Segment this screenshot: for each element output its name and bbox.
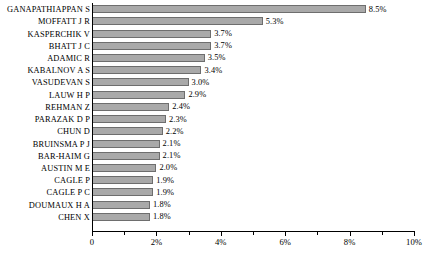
- bar-value-label: 1.9%: [156, 176, 174, 185]
- bar-value-label: 3.7%: [214, 41, 232, 50]
- bar: [92, 54, 205, 62]
- bar: [92, 5, 366, 13]
- bar-category-label: DOUMAUX H A: [29, 200, 90, 209]
- bar-with-value: 3.7%: [92, 30, 232, 38]
- bar-with-value: 1.9%: [92, 176, 174, 184]
- bar-with-value: 5.3%: [92, 17, 284, 25]
- bar: [92, 103, 169, 111]
- bar: [92, 188, 153, 196]
- bar-category-label: KABALNOV A S: [27, 66, 90, 75]
- chart-bar-row: CHEN X1.8%: [0, 211, 434, 223]
- bar: [92, 78, 189, 86]
- bar-with-value: 2.0%: [92, 164, 177, 172]
- chart-bar-row: AUSTIN M E2.0%: [0, 162, 434, 174]
- bar-value-label: 1.8%: [153, 200, 171, 209]
- x-axis-minor-tick: [189, 232, 190, 235]
- bar-with-value: 8.5%: [92, 5, 387, 13]
- bar: [92, 66, 201, 74]
- bar: [92, 213, 150, 221]
- chart-bar-row: CHUN D2.2%: [0, 125, 434, 137]
- chart-bar-row: BRUINSMA P J2.1%: [0, 137, 434, 149]
- bar: [92, 30, 211, 38]
- chart-bar-row: VASUDEVAN S3.0%: [0, 76, 434, 88]
- bar-category-label: CHUN D: [57, 127, 90, 136]
- bar-category-label: CAGLE P C: [47, 188, 90, 197]
- bar-value-label: 1.8%: [153, 212, 171, 221]
- chart-bar-row: ADAMIC R3.5%: [0, 52, 434, 64]
- bar-category-label: ADAMIC R: [47, 53, 90, 62]
- bar-value-label: 3.5%: [208, 53, 226, 62]
- bar-value-label: 3.7%: [214, 29, 232, 38]
- chart-bar-row: PARAZAK D P2.3%: [0, 113, 434, 125]
- x-axis-minor-tick: [253, 232, 254, 235]
- x-axis-tick: [221, 232, 222, 236]
- bar: [92, 152, 160, 160]
- bar-with-value: 1.8%: [92, 201, 171, 209]
- bar-value-label: 2.1%: [163, 139, 181, 148]
- chart-bar-row: REHMAN Z2.4%: [0, 101, 434, 113]
- bar-with-value: 2.1%: [92, 152, 180, 160]
- x-axis-minor-tick: [124, 232, 125, 235]
- bar-value-label: 3.0%: [192, 78, 210, 87]
- bar-with-value: 2.3%: [92, 115, 187, 123]
- x-axis-tick-label: 0: [90, 237, 94, 247]
- bar-category-label: BHATT J C: [49, 41, 90, 50]
- bar: [92, 176, 153, 184]
- x-axis-minor-tick: [317, 232, 318, 235]
- bar-with-value: 2.2%: [92, 127, 184, 135]
- bar-with-value: 2.9%: [92, 91, 206, 99]
- bar-value-label: 2.0%: [159, 163, 177, 172]
- x-axis-tick: [414, 232, 415, 236]
- x-axis-tick: [92, 232, 93, 236]
- x-axis-tick: [156, 232, 157, 236]
- bar-with-value: 1.9%: [92, 188, 174, 196]
- chart-bar-row: GANAPATHIAPPAN S8.5%: [0, 3, 434, 15]
- x-axis-tick-label: 4%: [215, 237, 226, 247]
- chart-bar-row: LAUW H P2.9%: [0, 89, 434, 101]
- bar-category-label: VASUDEVAN S: [32, 78, 90, 87]
- bar-category-label: LAUW H P: [49, 90, 90, 99]
- bar-category-label: PARAZAK D P: [35, 115, 90, 124]
- chart-bar-row: BHATT J C3.7%: [0, 40, 434, 52]
- bar-value-label: 2.3%: [169, 115, 187, 124]
- y-axis-line: [92, 3, 93, 231]
- x-axis-tick-label: 6%: [279, 237, 290, 247]
- bar-category-label: CAGLE P: [54, 176, 90, 185]
- bar-category-label: CHEN X: [58, 212, 90, 221]
- bar: [92, 42, 211, 50]
- bar-with-value: 2.1%: [92, 140, 180, 148]
- bar-with-value: 3.7%: [92, 42, 232, 50]
- bar-category-label: GANAPATHIAPPAN S: [7, 5, 90, 14]
- x-axis-tick: [285, 232, 286, 236]
- bar-value-label: 5.3%: [266, 17, 284, 26]
- x-axis-tick: [350, 232, 351, 236]
- chart-bar-row: KABALNOV A S3.4%: [0, 64, 434, 76]
- x-axis-tick-label: 2%: [151, 237, 162, 247]
- bar-value-label: 2.9%: [188, 90, 206, 99]
- bar-category-label: BAR-HAIM G: [38, 151, 90, 160]
- chart-bar-row: KASPERCHIK V3.7%: [0, 27, 434, 39]
- x-axis-tick-label: 10%: [406, 237, 422, 247]
- bar: [92, 201, 150, 209]
- bar-with-value: 1.8%: [92, 213, 171, 221]
- bar-value-label: 3.4%: [204, 66, 222, 75]
- bar: [92, 115, 166, 123]
- bar-value-label: 2.2%: [166, 127, 184, 136]
- bar-chart: GANAPATHIAPPAN S8.5%MOFFATT J R5.3%KASPE…: [0, 0, 434, 257]
- chart-bar-row: CAGLE P1.9%: [0, 174, 434, 186]
- chart-bar-row: DOUMAUX H A1.8%: [0, 199, 434, 211]
- bar-category-label: MOFFATT J R: [38, 17, 90, 26]
- bar-value-label: 8.5%: [369, 5, 387, 14]
- x-axis-minor-tick: [382, 232, 383, 235]
- bar-value-label: 2.1%: [163, 151, 181, 160]
- bar-category-label: KASPERCHIK V: [28, 29, 90, 38]
- bar: [92, 17, 263, 25]
- bar-with-value: 2.4%: [92, 103, 190, 111]
- chart-bar-row: MOFFATT J R5.3%: [0, 15, 434, 27]
- bar-category-label: REHMAN Z: [45, 102, 90, 111]
- bar-with-value: 3.5%: [92, 54, 226, 62]
- x-axis-tick-label: 8%: [344, 237, 355, 247]
- bar-with-value: 3.4%: [92, 66, 222, 74]
- bar: [92, 91, 185, 99]
- bar-value-label: 2.4%: [172, 102, 190, 111]
